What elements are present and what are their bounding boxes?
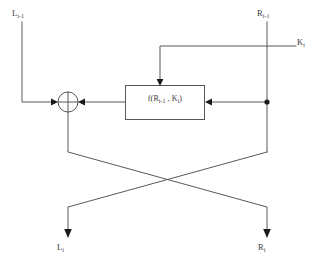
round-key-label-sub: i (303, 42, 305, 48)
round-key-arrow-icon (157, 79, 164, 86)
round-key-label: Ki (297, 38, 305, 47)
function-box-sub1: i-1 (159, 98, 166, 104)
left-input-label: Li-1 (12, 9, 24, 18)
xor-to-right-output-wire (68, 112, 267, 230)
function-box-suffix: ) (179, 94, 182, 103)
right-output-label-base: R (258, 242, 264, 252)
right-output-arrow-icon (263, 229, 271, 238)
xor-right-arrow-icon (78, 99, 85, 106)
function-box-prefix: f(R (148, 94, 159, 103)
diagram-canvas (0, 0, 325, 265)
function-box-label: f(Ri-1 , Ki) (125, 95, 205, 103)
right-input-label-sub: i-1 (263, 13, 270, 19)
left-input-wire (22, 22, 54, 102)
left-input-label-sub: i-1 (17, 13, 24, 19)
right-input-label-base: R (257, 8, 263, 18)
right-branch-junction-dot (264, 99, 269, 104)
function-box-mid: , K (166, 94, 178, 103)
left-output-label: Li (57, 243, 64, 252)
right-branch-to-left-output-wire (68, 152, 267, 230)
round-key-wire (160, 46, 296, 80)
left-output-label-sub: i (62, 247, 64, 253)
feistel-round-diagram: Li-1 Ri-1 Ki f(Ri-1 , Ki) Li Ri (0, 0, 325, 265)
xor-left-arrow-icon (51, 99, 58, 106)
left-output-arrow-icon (64, 229, 72, 238)
function-input-arrow-icon (205, 99, 212, 106)
right-input-label: Ri-1 (257, 9, 269, 18)
right-output-label: Ri (258, 243, 265, 252)
